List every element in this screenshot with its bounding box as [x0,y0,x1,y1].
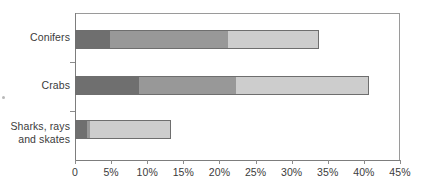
x-axis-ticks: 05%10%15%20%25%30%35%40%45% [75,160,401,188]
x-axis-tick-label: 30% [281,166,302,178]
x-axis-tick-mark [219,160,220,164]
x-axis-tick-label: 5% [103,166,118,178]
stacked-bar-chart: Conifers Crabs Sharks, rays and skates 0… [0,0,432,188]
bar-crabs [75,76,369,95]
category-label-line: and skates [0,133,70,146]
category-label-line: Crabs [41,79,70,91]
bar-segment-3 [228,30,318,49]
x-axis-tick-mark [364,160,365,164]
category-label-line: Sharks, rays [0,120,70,133]
x-axis-tick-mark [400,160,401,164]
bar-segment-1 [75,30,111,49]
bar-conifers [75,30,319,49]
category-label-conifers: Conifers [0,31,70,44]
x-axis-tick-mark [111,160,112,164]
bar-segment-2 [139,76,237,95]
x-axis-tick-label: 10% [137,166,158,178]
x-axis-tick-label: 40% [353,166,374,178]
x-axis-tick-label: 0 [72,166,78,178]
bar-segment-3 [90,120,171,139]
x-axis-tick-label: 20% [209,166,230,178]
category-label-crabs: Crabs [0,79,70,92]
x-axis-tick-label: 15% [173,166,194,178]
x-axis-tick-mark [183,160,184,164]
x-axis-tick-label: 45% [389,166,410,178]
bars-layer [75,13,400,160]
x-axis-tick-mark [328,160,329,164]
category-label-sharks-rays-and-skates: Sharks, rays and skates [0,120,70,146]
category-axis-labels: Conifers Crabs Sharks, rays and skates [0,13,70,160]
bar-segment-2 [110,30,229,49]
x-axis-tick-label: 35% [317,166,338,178]
x-axis-tick-label: 25% [245,166,266,178]
bar-segment-1 [75,76,140,95]
bar-segment-3 [236,76,370,95]
x-axis-tick-mark [256,160,257,164]
x-axis-tick-mark [147,160,148,164]
category-label-line: Conifers [30,31,70,43]
bar-sharks-rays-and-skates [75,120,171,139]
x-axis-tick-mark [292,160,293,164]
x-axis-tick-mark [75,160,76,164]
